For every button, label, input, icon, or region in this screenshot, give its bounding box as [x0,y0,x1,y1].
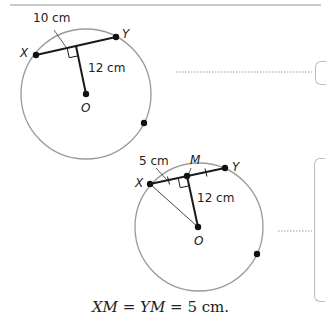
point-x-2 [147,181,153,187]
point-o-1 [83,91,89,97]
caption-equation: XM = YM = 5 cm. [0,298,321,316]
label-center-o-2: O [194,235,203,247]
figure-1 [21,29,151,159]
label-point-m-2: M [190,154,200,166]
point-extra-2 [254,251,260,257]
label-chord-length-1: 10 cm [33,12,70,24]
caption-value: 5 cm. [187,298,229,316]
point-o-2 [195,224,201,230]
point-y-2 [222,165,228,171]
point-m-2 [184,173,190,179]
point-extra-1 [141,120,147,126]
label-point-y-1: Y [122,28,129,40]
callout-box-2 [314,158,325,302]
caption-xm: XM [92,298,118,316]
caption-ym: YM [140,298,165,316]
point-y-1 [113,34,119,40]
label-distance-1: 12 cm [88,62,125,74]
perpendicular-1 [76,46,86,94]
label-half-chord-2: 5 cm [139,155,169,167]
figure-2 [135,163,263,291]
label-point-x-1: X [20,47,28,59]
label-point-x-2: X [135,177,143,189]
point-x-1 [33,52,39,58]
label-distance-2: 12 cm [197,192,234,204]
caption-equals-2: = [165,298,187,316]
caption-equals-1: = [118,298,140,316]
callout-box-1 [315,61,326,85]
label-point-y-2: Y [232,161,239,173]
label-center-o-1: O [81,102,90,114]
